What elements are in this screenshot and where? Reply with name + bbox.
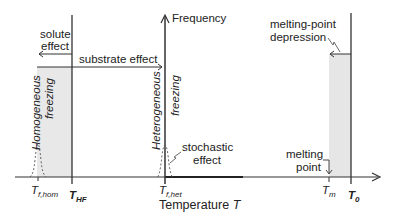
- tick-t-f-het: Tf,het: [159, 184, 182, 199]
- x-axis-label: Temperature T: [159, 199, 240, 212]
- solute-effect-label-2: effect: [41, 40, 69, 53]
- heterogeneous-label-1: Heterogeneous: [150, 71, 163, 150]
- homogeneous-label-2: freezing: [43, 78, 56, 119]
- tick-t-f-hom: Tf,hom: [31, 184, 58, 199]
- homogeneous-label-1: Homogeneous: [30, 75, 43, 150]
- tick-t-hf: THF: [69, 189, 87, 204]
- stochastic-effect-label-1: stochastic: [182, 141, 233, 154]
- stochastic-effect-label-2: effect: [193, 154, 221, 167]
- stochastic-leader: [170, 152, 181, 163]
- tick-t-m: Tm: [322, 184, 336, 199]
- melting-depression-label-1: melting-point: [270, 18, 336, 31]
- y-axis-label: Frequency: [172, 12, 226, 25]
- substrate-effect-label: substrate effect: [79, 53, 157, 66]
- melting-depression-label-2: depression: [270, 31, 326, 44]
- tick-t-0: T0: [348, 189, 359, 204]
- melting-point-label-2: point: [296, 161, 321, 174]
- heterogeneous-label-2: freezing: [169, 75, 182, 116]
- melting-depression-shade: [329, 54, 351, 177]
- melting-point-leader: [323, 160, 329, 173]
- melting-point-label-1: melting: [286, 148, 323, 161]
- melting-depression-leader: [328, 38, 340, 52]
